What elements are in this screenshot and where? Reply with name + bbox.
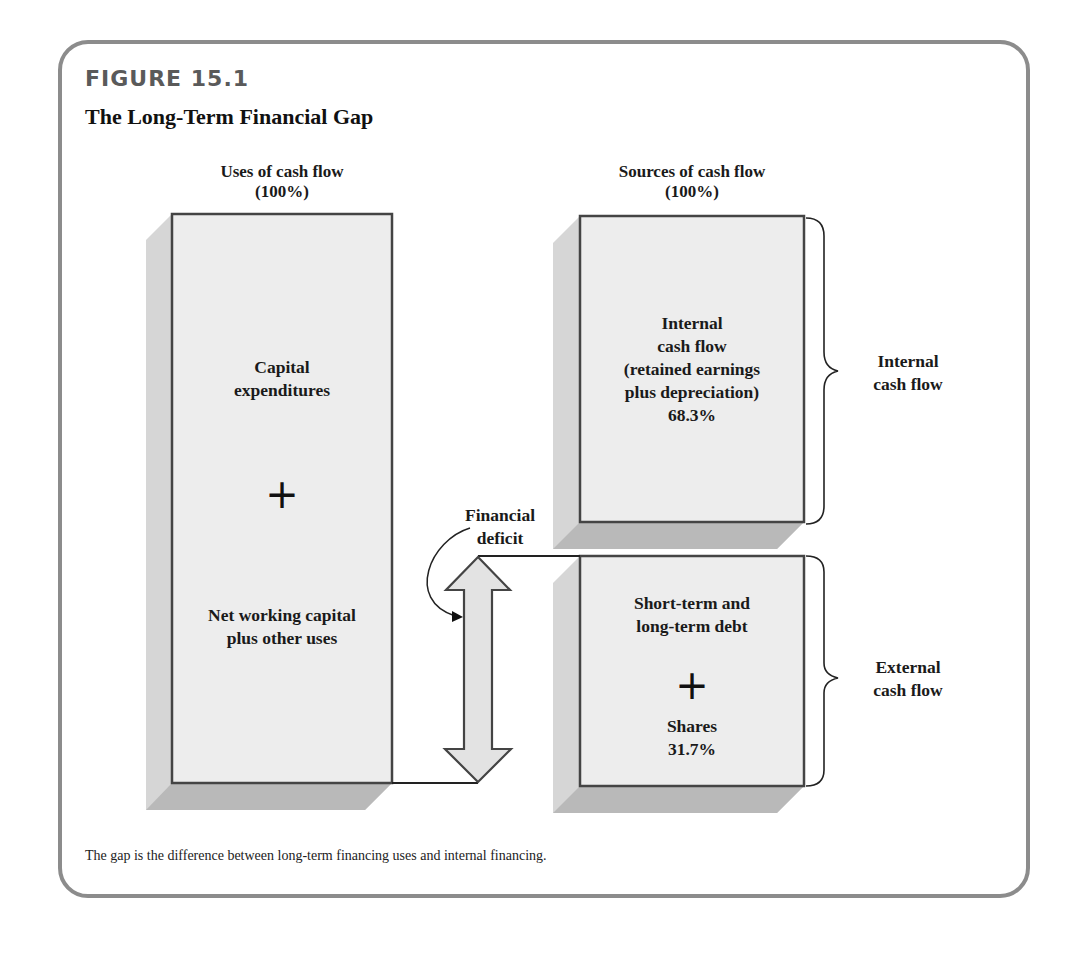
uses-heading-line1: Uses of cash flow <box>182 162 382 182</box>
sources-heading: Sources of cash flow (100%) <box>582 162 802 202</box>
deficit-double-arrow-icon <box>445 557 511 782</box>
gap-diagram <box>0 0 1090 953</box>
expenditures-line: expenditures <box>172 379 392 402</box>
internal-brace-line1: Internal <box>848 350 968 373</box>
internal-brace-icon <box>806 218 838 524</box>
deficit-line2: deficit <box>440 527 560 550</box>
internal-line2: cash flow <box>580 335 804 358</box>
net-working-capital-label: Net working capital plus other uses <box>172 604 392 650</box>
capital-line: Capital <box>172 356 392 379</box>
external-brace-line1: External <box>848 656 968 679</box>
internal-brace-line2: cash flow <box>848 373 968 396</box>
external-brace-label: External cash flow <box>848 656 968 702</box>
external-brace-icon <box>806 556 838 786</box>
uses-heading: Uses of cash flow (100%) <box>182 162 382 202</box>
shares-line: Shares <box>580 715 804 738</box>
plus-icon: + <box>252 474 312 514</box>
deficit-line1: Financial <box>440 504 560 527</box>
internal-percent: 68.3% <box>580 404 804 427</box>
arrowhead-icon <box>452 611 463 622</box>
financial-deficit-label: Financial deficit <box>440 504 560 550</box>
nwc-line1: Net working capital <box>172 604 392 627</box>
internal-line3: (retained earnings <box>580 358 804 381</box>
external-line1: Short-term and <box>580 592 804 615</box>
sources-heading-line1: Sources of cash flow <box>582 162 802 182</box>
external-line2: long-term debt <box>580 615 804 638</box>
capital-expenditures-label: Capital expenditures <box>172 356 392 402</box>
internal-brace-label: Internal cash flow <box>848 350 968 396</box>
nwc-line2: plus other uses <box>172 627 392 650</box>
internal-line1: Internal <box>580 312 804 335</box>
external-percent: 31.7% <box>580 738 804 761</box>
shares-label: Shares 31.7% <box>580 715 804 761</box>
debt-label: Short-term and long-term debt <box>580 592 804 638</box>
uses-heading-line2: (100%) <box>182 182 382 202</box>
sources-heading-line2: (100%) <box>582 182 802 202</box>
internal-line4: plus depreciation) <box>580 381 804 404</box>
external-brace-line2: cash flow <box>848 679 968 702</box>
internal-cash-flow-label: Internal cash flow (retained earnings pl… <box>580 312 804 427</box>
figure-caption: The gap is the difference between long-t… <box>85 848 547 864</box>
plus-icon: + <box>662 665 722 705</box>
